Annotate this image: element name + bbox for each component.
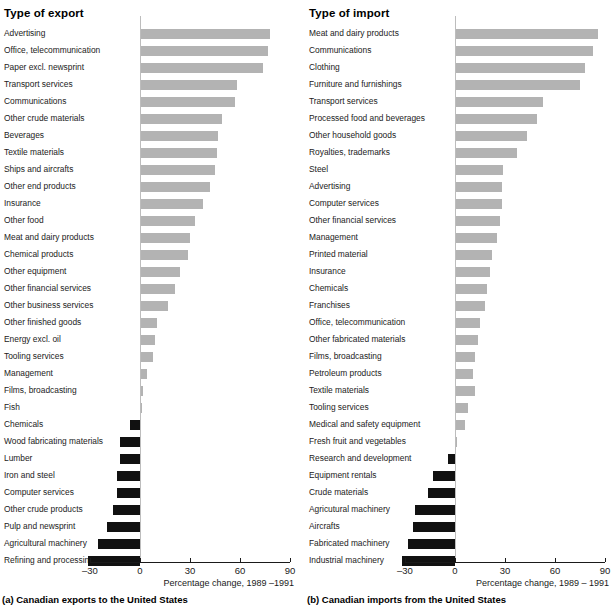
category-label: Furniture and furnishings <box>309 76 451 93</box>
x-tick-mark <box>140 558 141 562</box>
bar-positive <box>455 97 543 107</box>
bar-positive <box>140 165 215 175</box>
category-label: Insurance <box>309 263 451 280</box>
x-tick-label: 90 <box>585 565 615 576</box>
bar-positive <box>140 63 263 73</box>
bar-positive <box>455 216 500 226</box>
bar-row: Chemical products <box>0 246 300 263</box>
bar-row: Transport services <box>0 76 300 93</box>
category-label: Fresh fruit and vegetables <box>309 433 451 450</box>
bar-row: Other business services <box>0 297 300 314</box>
bar-row: Management <box>0 365 300 382</box>
x-tick-label: 30 <box>485 565 525 576</box>
bar-negative <box>117 488 140 498</box>
bar-positive <box>140 46 268 56</box>
category-label: Other crude materials <box>4 110 136 127</box>
category-label: Meat and dairy products <box>309 25 451 42</box>
category-label: Other food <box>4 212 136 229</box>
bar-negative <box>433 471 455 481</box>
bar-negative <box>415 505 455 515</box>
category-label: Advertising <box>4 25 136 42</box>
bar-positive <box>455 131 527 141</box>
category-label: Other equipment <box>4 263 136 280</box>
bar-row: Wood fabricating materials <box>0 433 300 450</box>
x-tick-label: –30 <box>385 565 425 576</box>
bar-negative <box>88 556 140 566</box>
category-label: Chemicals <box>309 280 451 297</box>
panel-b-x-axis <box>405 562 605 563</box>
bar-row: Other finished goods <box>0 314 300 331</box>
bar-row: Iron and steel <box>0 467 300 484</box>
bar-row: Beverages <box>0 127 300 144</box>
bar-positive <box>140 352 153 362</box>
category-label: Transport services <box>309 93 451 110</box>
bar-positive <box>455 386 475 396</box>
panel-b-zero-line <box>455 16 456 562</box>
category-label: Chemicals <box>4 416 136 433</box>
bar-positive <box>455 148 517 158</box>
category-label: Transport services <box>4 76 136 93</box>
panel-a-exports: Type of export AdvertisingOffice, teleco… <box>0 0 305 613</box>
bar-positive <box>140 199 203 209</box>
x-tick-mark <box>190 558 191 562</box>
category-label: Franchises <box>309 297 451 314</box>
bar-row: Fish <box>0 399 300 416</box>
category-label: Management <box>4 365 136 382</box>
category-label: Computer services <box>309 195 451 212</box>
category-label: Other household goods <box>309 127 451 144</box>
category-label: Other financial services <box>309 212 451 229</box>
category-label: Other business services <box>4 297 136 314</box>
category-label: Office, telecommunication <box>309 314 451 331</box>
category-label: Other fabricated materials <box>309 331 451 348</box>
bar-positive <box>455 165 503 175</box>
bar-negative <box>107 522 140 532</box>
bar-row: Other crude products <box>0 501 300 518</box>
x-tick-mark <box>240 558 241 562</box>
x-tick-mark <box>505 558 506 562</box>
category-label: Equipment rentals <box>309 467 451 484</box>
bar-positive <box>455 29 598 39</box>
category-label: Tooling services <box>4 348 136 365</box>
category-label: Films, broadcasting <box>4 382 136 399</box>
bar-negative <box>402 556 455 566</box>
x-tick-mark <box>605 558 606 562</box>
category-label: Textile materials <box>4 144 136 161</box>
category-label: Steel <box>309 161 451 178</box>
bar-positive <box>455 267 490 277</box>
panel-a-x-axis-label: Percentage change, 1989 –1991 <box>0 578 294 588</box>
bar-positive <box>455 352 475 362</box>
bar-positive <box>140 148 217 158</box>
x-tick-label: 60 <box>535 565 575 576</box>
bar-row: Energy excl. oil <box>0 331 300 348</box>
bar-positive <box>455 318 480 328</box>
bar-positive <box>140 216 195 226</box>
bar-row: Other end products <box>0 178 300 195</box>
category-label: Other end products <box>4 178 136 195</box>
category-label: Tooling services <box>309 399 451 416</box>
bar-positive <box>140 284 175 294</box>
panel-a-x-axis <box>90 562 290 563</box>
category-label: Processed food and beverages <box>309 110 451 127</box>
panel-b-x-axis-label: Percentage change, 1989 – 1991 <box>305 578 609 588</box>
category-label: Advertising <box>309 178 451 195</box>
bar-positive <box>140 301 168 311</box>
category-label: Research and development <box>309 450 451 467</box>
category-label: Other finished goods <box>4 314 136 331</box>
x-tick-label: 60 <box>220 565 260 576</box>
bar-row: Other financial services <box>0 280 300 297</box>
bar-negative <box>120 437 140 447</box>
panel-a-plot-area: AdvertisingOffice, telecommunicationPape… <box>0 0 300 560</box>
bar-positive <box>140 233 190 243</box>
bar-negative <box>120 454 140 464</box>
x-tick-label: 0 <box>120 565 160 576</box>
bar-row: Other equipment <box>0 263 300 280</box>
category-label: Textile materials <box>309 382 451 399</box>
category-label: Paper excl. newsprint <box>4 59 136 76</box>
bar-positive <box>455 335 478 345</box>
bar-positive <box>140 182 210 192</box>
bar-row: Agricultural machinery <box>0 535 300 552</box>
x-tick-mark <box>405 558 406 562</box>
category-label: Beverages <box>4 127 136 144</box>
bar-positive <box>455 420 465 430</box>
